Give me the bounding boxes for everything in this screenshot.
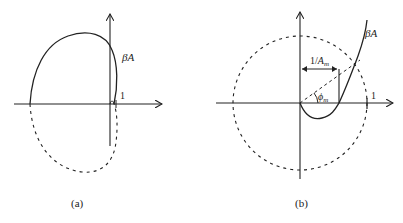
panel-b-gain-margin-label: 1/Am xyxy=(310,55,329,68)
nyquist-figure: βA 1 (a) βA 1 1/Am ϕm (b) xyxy=(0,0,403,223)
panel-b-caption: (b) xyxy=(295,197,308,210)
panel-a-nyquist-curve-dashed xyxy=(30,104,117,172)
panel-b-phase-margin-label: ϕm xyxy=(318,91,328,104)
panel-a-caption: (a) xyxy=(71,197,84,210)
panel-b-unit-label: 1 xyxy=(371,90,376,101)
panel-a-curve-label: βA xyxy=(121,51,134,63)
panel-a-unit-label: 1 xyxy=(120,90,125,101)
panel-b-curve-label: βA xyxy=(364,27,377,39)
panel-a-nyquist-curve-solid xyxy=(30,33,117,104)
panel-b: βA 1 1/Am ϕm (b) xyxy=(216,12,393,210)
panel-a: βA 1 (a) xyxy=(14,14,162,210)
panel-b-phase-margin-ray xyxy=(300,60,360,103)
